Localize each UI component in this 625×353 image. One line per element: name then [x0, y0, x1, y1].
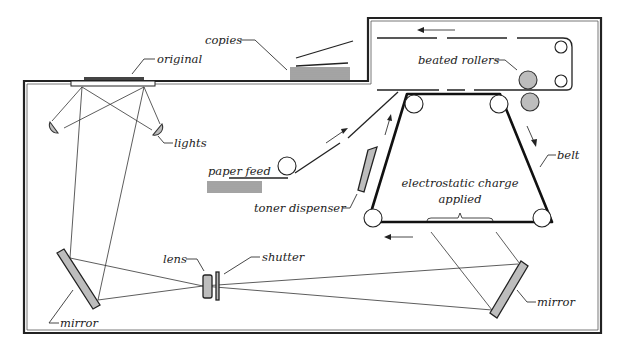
heated-roller-top [519, 71, 537, 89]
toner-dispenser [358, 147, 377, 192]
svg-text:beated rollers: beated rollers [418, 53, 500, 67]
label-toner-dispenser: toner dispenser [254, 194, 357, 215]
label-lights: lights [158, 136, 207, 150]
label-paper-feed: paper feed [208, 164, 271, 178]
copies-stack [290, 41, 353, 80]
original-document [84, 77, 144, 80]
svg-text:applied: applied [438, 192, 481, 206]
platen-glass [71, 77, 155, 86]
lens [203, 275, 212, 298]
mirror-right [490, 261, 528, 318]
svg-text:mirror: mirror [537, 295, 577, 309]
label-electrostatic-charge: electrostatic charge applied [402, 176, 519, 206]
heated-roller-bottom [521, 93, 539, 111]
svg-text:electrostatic charge: electrostatic charge [402, 176, 519, 190]
svg-text:copies: copies [205, 33, 242, 47]
mirror-left [57, 249, 100, 309]
shutter [216, 272, 219, 300]
label-lens: lens [163, 252, 204, 271]
svg-text:lights: lights [174, 136, 207, 150]
label-mirror-right: mirror [517, 290, 577, 309]
belt [364, 94, 552, 227]
svg-text:toner dispenser: toner dispenser [254, 201, 347, 215]
electrostatic-brace [427, 213, 493, 221]
label-belt: belt [540, 148, 580, 167]
svg-text:original: original [157, 52, 202, 66]
label-copies: copies [205, 33, 287, 70]
photocopier-diagram: copies original beated rollers lights pa… [0, 0, 625, 353]
label-shutter: shutter [224, 250, 306, 274]
light-right-icon [153, 124, 163, 135]
svg-text:lens: lens [163, 252, 187, 266]
svg-text:paper feed: paper feed [208, 164, 271, 178]
svg-text:mirror: mirror [60, 316, 100, 330]
light-left-icon [49, 122, 58, 133]
label-original: original [132, 52, 202, 74]
svg-text:belt: belt [557, 148, 580, 162]
label-heated-rollers: beated rollers [418, 53, 517, 70]
svg-text:shutter: shutter [262, 250, 306, 264]
lights [49, 87, 162, 135]
